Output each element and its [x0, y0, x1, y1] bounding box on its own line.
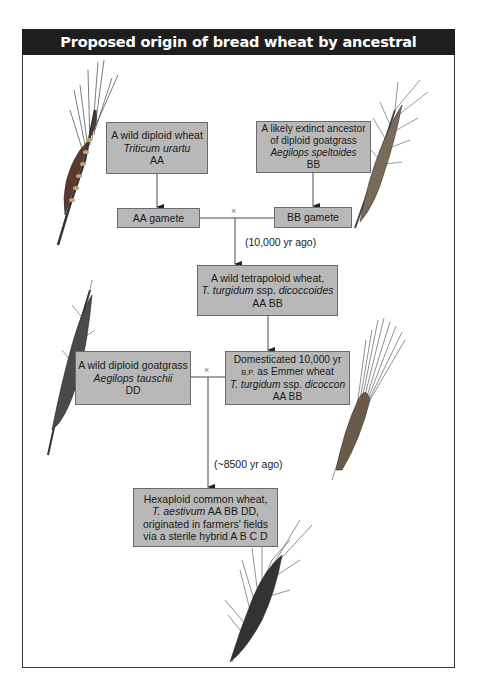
- species-name: dicoccoides: [279, 284, 334, 296]
- genome-label: DD: [76, 384, 190, 397]
- box-aegilops-tauschii: A wild diploid goatgrass Aegilops tausch…: [75, 351, 191, 405]
- time-label-10000: (10,000 yr ago): [245, 236, 316, 248]
- species-name: Aegilops speltoides: [257, 147, 370, 159]
- box-bb-gamete: BB gamete: [274, 207, 352, 228]
- box-text: A wild tetrapoloid wheat,: [198, 272, 337, 285]
- box-text: Domesticated 10,000 yr: [226, 354, 349, 366]
- box-aegilops-speltoides: A likely extinct ancestor of diploid goa…: [256, 121, 371, 173]
- cross-symbol-1: ×: [231, 206, 236, 216]
- ssp-text: ssp.: [254, 284, 279, 296]
- box-text: AA gamete: [118, 212, 199, 225]
- box-aestivum: Hexaploid common wheat, T. aestivum AA B…: [133, 488, 278, 547]
- species-name: T. aestivum: [152, 505, 205, 517]
- time-label-8500: (~8500 yr ago): [214, 458, 283, 470]
- genome-label: BB: [257, 159, 370, 171]
- species-name: T. turgidum: [230, 379, 281, 390]
- species-name: T. turgidum: [201, 284, 253, 296]
- bp-text: B.P.: [241, 368, 254, 377]
- box-dicoccon: Domesticated 10,000 yr B.P. as Emmer whe…: [225, 351, 350, 405]
- species-line: T. turgidum ssp. dicoccoides: [198, 284, 337, 297]
- genome-label: AA: [107, 154, 207, 167]
- box-text: A wild diploid wheat: [107, 129, 207, 142]
- emmer-line: B.P. as Emmer wheat: [226, 366, 349, 379]
- box-text: A likely extinct ancestor: [257, 123, 370, 135]
- box-text: Hexaploid common wheat,: [134, 493, 277, 506]
- cross-symbol-2: ×: [204, 365, 209, 375]
- species-name: Aegilops tauschii: [76, 372, 190, 385]
- connector-lines: [0, 0, 477, 682]
- box-text: BB gamete: [275, 211, 351, 224]
- box-dicoccoides: A wild tetrapoloid wheat, T. turgidum ss…: [197, 265, 338, 316]
- box-aa-gamete: AA gamete: [117, 208, 200, 228]
- box-triticum-urartu: A wild diploid wheat Triticum urartu AA: [106, 122, 208, 174]
- species-line: T. aestivum AA BB DD,: [134, 505, 277, 518]
- species-line: T. turgidum ssp. dicoccon: [226, 379, 349, 391]
- genome-label: AA BB DD,: [205, 505, 259, 517]
- ssp-text: ssp.: [281, 379, 305, 390]
- box-text: originated in farmers' fields: [134, 518, 277, 531]
- box-text: of diploid goatgrass: [257, 135, 370, 147]
- box-text: via a sterile hybrid A B C D: [134, 530, 277, 543]
- genome-label: AA BB: [226, 391, 349, 403]
- box-text: A wild diploid goatgrass: [76, 359, 190, 372]
- species-name: Triticum urartu: [107, 142, 207, 155]
- box-text: as Emmer wheat: [254, 366, 333, 377]
- species-name: dicoccon: [305, 379, 345, 390]
- genome-label: AA BB: [198, 297, 337, 310]
